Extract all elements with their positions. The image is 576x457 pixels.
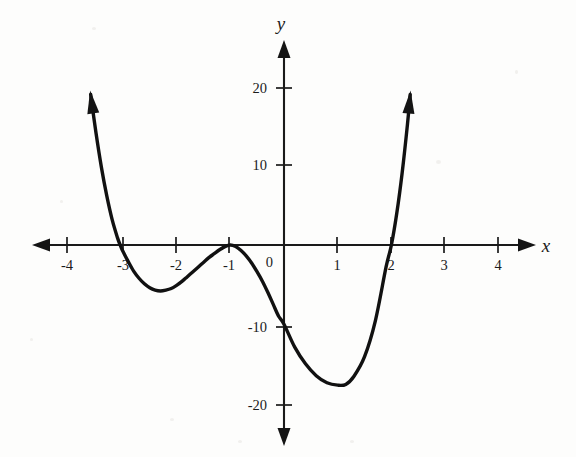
x-tick-label--1: -1 xyxy=(223,257,235,273)
y-tick-label-20: 20 xyxy=(253,80,268,96)
x-tick-label--4: -4 xyxy=(61,257,74,273)
y-axis-down-arrow-icon xyxy=(278,428,291,446)
coordinate-plane-svg: -4 -3 -2 -1 1 2 3 4 x 20 10 -10 -20 y xyxy=(0,0,576,457)
curve-right-branch-arrow-icon xyxy=(402,91,414,114)
polynomial-curve xyxy=(91,95,411,386)
x-tick-label-3: 3 xyxy=(440,257,447,273)
x-axis-left-arrow-icon xyxy=(32,239,50,252)
x-tick-label-1: 1 xyxy=(333,257,340,273)
x-axis-group: -4 -3 -2 -1 1 2 3 4 x xyxy=(32,235,551,273)
polynomial-curve-group xyxy=(87,91,414,386)
y-tick-label--10: -10 xyxy=(248,319,267,335)
y-tick-label-10: 10 xyxy=(253,157,268,173)
y-tick-label--20: -20 xyxy=(248,397,267,413)
x-tick-label-4: 4 xyxy=(494,257,502,273)
graph-figure: -4 -3 -2 -1 1 2 3 4 x 20 10 -10 -20 y xyxy=(0,0,576,457)
x-axis-name-label: x xyxy=(541,235,551,256)
origin-label: 0 xyxy=(266,254,273,270)
y-axis-up-arrow-icon xyxy=(278,40,291,58)
y-axis-group: 20 10 -10 -20 y 0 xyxy=(248,13,292,446)
x-tick-label--2: -2 xyxy=(170,257,182,273)
y-axis-name-label: y xyxy=(275,13,286,34)
x-axis-right-arrow-icon xyxy=(518,239,536,252)
